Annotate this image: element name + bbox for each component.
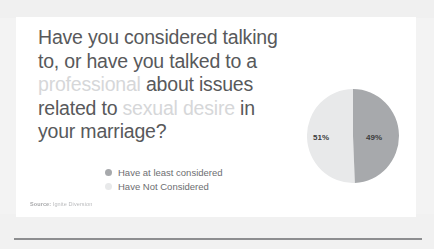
scan-band-bottom — [0, 214, 434, 249]
question-line-2: to, or have you talked to a — [38, 50, 257, 72]
legend-swatch-not-considered — [105, 183, 112, 190]
chart-card: Have you considered talking to, or have … — [16, 17, 416, 217]
source-value: Ignite Diversion — [53, 201, 93, 207]
pie-label-considered: 49% — [366, 133, 382, 142]
pie-chart: 51% 49% — [307, 89, 399, 183]
source-label: Source: — [30, 201, 51, 207]
source-attribution: Source: Ignite Diversion — [30, 201, 92, 207]
legend-swatch-considered — [105, 169, 112, 176]
question-line-1: Have you considered talking — [38, 26, 278, 48]
question-line-3: about issues — [141, 73, 253, 95]
legend-label-considered: Have at least considered — [118, 167, 223, 178]
page-title: Have you considered talking to, or have … — [38, 26, 288, 144]
question-line-4: related to — [38, 97, 123, 119]
question-highlight-professional: professional — [38, 73, 141, 95]
pie-label-not-considered: 51% — [313, 133, 329, 142]
question-highlight-sexual-desire: sexual desire — [123, 97, 235, 119]
legend-label-not-considered: Have Not Considered — [118, 181, 209, 192]
scan-band-top — [0, 0, 434, 18]
chart-legend: Have at least considered Have Not Consid… — [105, 165, 223, 193]
bottom-divider — [14, 238, 422, 240]
page-background: Have you considered talking to, or have … — [0, 0, 434, 249]
legend-item-considered[interactable]: Have at least considered — [105, 165, 223, 179]
legend-item-not-considered[interactable]: Have Not Considered — [105, 179, 223, 193]
